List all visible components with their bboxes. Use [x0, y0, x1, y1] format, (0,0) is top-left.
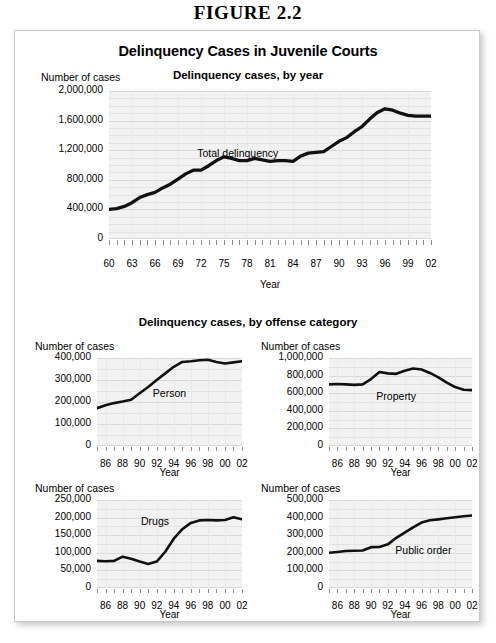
- x-tick: [233, 447, 234, 451]
- y-tick-label: 200,000: [29, 396, 91, 406]
- x-tick-label: 02: [417, 259, 445, 269]
- y-tick-label: 800,000: [19, 174, 103, 184]
- x-tick: [371, 447, 372, 451]
- x-tick: [109, 240, 110, 245]
- figure-card: Delinquency Cases in Juvenile Courts Del…: [14, 30, 480, 622]
- x-tick: [97, 589, 98, 593]
- x-tick: [233, 589, 234, 593]
- x-tick: [131, 589, 132, 593]
- x-axis-title: Year: [329, 609, 472, 620]
- x-tick: [329, 447, 330, 451]
- x-tick: [377, 240, 378, 245]
- data-series-person: [97, 358, 242, 446]
- data-series-drugs: [97, 500, 242, 588]
- x-tick: [191, 589, 192, 593]
- x-tick: [165, 589, 166, 593]
- x-tick: [242, 447, 243, 451]
- x-tick: [216, 240, 217, 245]
- section-title-by-offense-category: Delinquency cases, by offense category: [15, 316, 481, 328]
- y-tick-label: 250,000: [29, 494, 91, 504]
- x-tick: [339, 240, 340, 245]
- x-tick: [148, 589, 149, 593]
- x-tick: [182, 447, 183, 451]
- series-label-public-order: Public order: [395, 544, 451, 556]
- x-tick: [114, 447, 115, 451]
- x-tick: [363, 447, 364, 451]
- y-tick-label: 300,000: [29, 374, 91, 384]
- x-tick: [455, 589, 456, 593]
- x-tick: [422, 447, 423, 451]
- x-tick: [293, 240, 294, 245]
- x-tick: [174, 447, 175, 451]
- x-tick: [224, 240, 225, 245]
- y-tick-label: 0: [19, 233, 103, 243]
- x-tick: [413, 447, 414, 451]
- x-tick: [405, 589, 406, 593]
- x-tick: [165, 447, 166, 451]
- x-tick: [225, 589, 226, 593]
- y-tick-label: 200,000: [255, 422, 323, 432]
- x-tick: [201, 240, 202, 245]
- x-tick: [385, 240, 386, 245]
- x-tick: [114, 589, 115, 593]
- data-series-property: [329, 358, 472, 446]
- chart-person: Number of casesPerson400,000300,000200,0…: [21, 336, 249, 486]
- x-tick: [423, 240, 424, 245]
- y-tick-label: 800,000: [255, 370, 323, 380]
- y-tick-label: 0: [29, 582, 91, 592]
- plot-area: [329, 358, 472, 446]
- x-tick: [362, 240, 363, 245]
- x-tick: [106, 447, 107, 451]
- x-tick: [347, 240, 348, 245]
- y-tick-label: 150,000: [29, 529, 91, 539]
- x-tick: [346, 447, 347, 451]
- x-tick: [354, 240, 355, 245]
- x-tick: [416, 240, 417, 245]
- y-tick-label: 1,600,000: [19, 115, 103, 125]
- x-tick: [354, 589, 355, 593]
- x-tick: [308, 240, 309, 245]
- x-tick: [262, 240, 263, 245]
- x-tick: [413, 589, 414, 593]
- x-tick: [464, 589, 465, 593]
- x-tick: [438, 447, 439, 451]
- x-tick: [408, 240, 409, 245]
- x-axis-title: Year: [329, 467, 472, 478]
- x-tick: [163, 240, 164, 245]
- y-tick-label: 0: [255, 582, 323, 592]
- x-tick: [97, 447, 98, 451]
- x-tick: [316, 240, 317, 245]
- x-tick: [124, 240, 125, 245]
- y-axis-title: Number of cases: [41, 71, 120, 83]
- x-tick: [247, 240, 248, 245]
- x-tick: [199, 447, 200, 451]
- x-tick: [216, 589, 217, 593]
- y-tick-label: 200,000: [255, 547, 323, 557]
- x-tick: [182, 589, 183, 593]
- x-tick: [117, 240, 118, 245]
- x-tick: [447, 589, 448, 593]
- data-series-total-delinquency: [109, 91, 431, 239]
- y-tick-label: 100,000: [29, 418, 91, 428]
- x-tick: [209, 240, 210, 245]
- chart-drugs: Number of casesDrugs250,000200,000150,00…: [21, 478, 249, 628]
- x-tick: [447, 447, 448, 451]
- x-tick: [331, 240, 332, 245]
- x-tick: [400, 240, 401, 245]
- x-tick: [388, 589, 389, 593]
- x-tick: [455, 447, 456, 451]
- x-tick: [285, 240, 286, 245]
- x-tick: [191, 447, 192, 451]
- x-tick: [255, 240, 256, 245]
- x-tick: [422, 589, 423, 593]
- x-tick: [438, 589, 439, 593]
- series-label-person: Person: [153, 387, 186, 399]
- x-tick: [155, 240, 156, 245]
- x-tick: [430, 447, 431, 451]
- y-tick-label: 400,000: [19, 203, 103, 213]
- y-tick-label: 1,200,000: [19, 144, 103, 154]
- y-tick-label: 400,000: [255, 512, 323, 522]
- x-tick: [147, 240, 148, 245]
- x-tick: [379, 589, 380, 593]
- x-tick: [278, 240, 279, 245]
